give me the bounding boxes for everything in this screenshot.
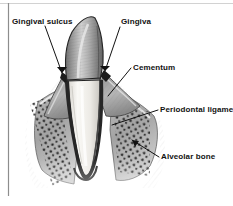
label-gingival-sulcus: Gingival sulcus [12,17,73,26]
label-cementum: Cementum [133,63,175,72]
gingiva-leader [105,27,120,71]
gingival-sulcus-leader [45,26,62,73]
label-gingiva: Gingiva [121,17,151,26]
tooth-anatomy-illustration [0,0,233,206]
label-periodontal-ligament: Periodontal ligamer [160,105,233,114]
label-alveolar-bone: Alveolar bone [161,152,215,161]
figure-canvas: Gingival sulcus Gingiva Cementum Periodo… [0,0,233,206]
